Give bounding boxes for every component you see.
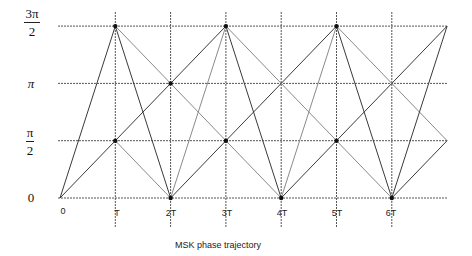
y-label-numerator: π [26,126,35,142]
trajectory-node [113,24,117,28]
trajectory-node [279,196,283,200]
trajectory-segment [392,26,447,198]
vertical-grid-lines [115,12,392,228]
trajectory-segment [60,26,115,198]
trajectory-segment [115,141,170,198]
y-label-pi-over-two: π 2 [22,126,38,157]
x-label-4t: 4T [277,208,288,218]
trajectory-segment [392,141,447,198]
trajectory-segment [171,26,226,198]
x-label-3t: 3T [222,208,233,218]
x-label-6t: 6T [386,208,397,218]
trajectory-segment [115,26,170,198]
x-label-0: 0 [60,206,65,216]
x-label-2t: 2T [166,208,177,218]
y-label-pi: π [24,76,38,92]
trajectory-segment [281,26,336,198]
y-label-denominator: 2 [29,23,36,38]
trajectory-node [168,196,172,200]
x-label-5t: 5T [332,208,343,218]
horizontal-grid-lines [58,26,447,198]
msk-phase-trajectory-diagram [0,0,472,256]
trajectory-node [113,139,117,143]
x-label-t: T [114,208,120,218]
y-label-zero: 0 [24,190,38,206]
trajectory-node [224,24,228,28]
diagram-caption: MSK phase trajectory [175,240,261,250]
y-label-denominator: 2 [27,142,34,157]
trajectory-segment [226,26,281,198]
trajectory-node [224,139,228,143]
trajectory-node [390,196,394,200]
trajectory-node [334,139,338,143]
trajectory-segment [337,26,392,198]
trajectory-node [334,24,338,28]
y-label-numerator: 3π [24,7,39,23]
phase-trajectory-lines [60,26,447,198]
trajectory-node [168,81,172,85]
y-label-three-pi-over-two: 3π 2 [22,7,42,38]
